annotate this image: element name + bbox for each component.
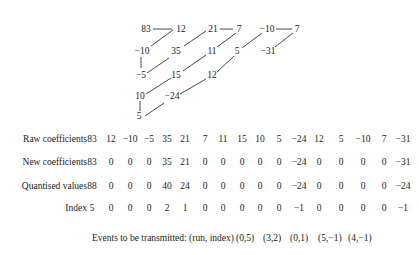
zigzag-node: 7 (295, 24, 300, 34)
table-cell: 0 (277, 203, 282, 213)
zigzag-node: −5 (136, 70, 146, 80)
table-cell: 40 (162, 181, 172, 191)
table-cell: 0 (382, 203, 387, 213)
table-cell: 35 (162, 157, 172, 167)
table-cell: 0 (109, 203, 114, 213)
zigzag-node: −31 (261, 46, 276, 56)
table-cell: 7 (382, 134, 387, 144)
table-cell: 0 (240, 157, 245, 167)
table-cell: −10 (123, 134, 138, 144)
zigzag-node: 15 (171, 70, 181, 80)
table-cell: 0 (339, 181, 344, 191)
table-cell: 83 (87, 134, 97, 144)
table-cell: 0 (128, 157, 133, 167)
zigzag-node: −24 (165, 91, 180, 101)
zigzag-node: 10 (135, 91, 145, 101)
table-cell: 0 (221, 203, 226, 213)
table-cell: 0 (361, 181, 366, 191)
zigzag-connectors (0, 0, 419, 255)
table-cell: 0 (382, 157, 387, 167)
table-cell: 15 (237, 134, 247, 144)
table-cell: 0 (203, 157, 208, 167)
table-cell: 0 (258, 203, 263, 213)
table-cell: 35 (162, 134, 172, 144)
table-cell: 10 (255, 134, 265, 144)
zigzag-node: 35 (171, 46, 181, 56)
table-cell: 0 (317, 181, 322, 191)
table-cell: 0 (277, 157, 282, 167)
table-cell: 0 (203, 203, 208, 213)
zigzag-node: 12 (207, 70, 217, 80)
table-cell: 0 (203, 181, 208, 191)
table-cell: 0 (240, 181, 245, 191)
table-cell: 83 (87, 157, 97, 167)
table-cell: −31 (396, 134, 411, 144)
row-label: Index (65, 203, 87, 213)
row-label: Raw coefficients (23, 134, 87, 144)
event-item: (4,−1) (348, 233, 372, 243)
table-cell: 0 (339, 203, 344, 213)
table-cell: 12 (314, 134, 324, 144)
table-cell: 5 (339, 134, 344, 144)
table-cell: 0 (109, 157, 114, 167)
table-cell: 88 (87, 181, 97, 191)
table-cell: −24 (292, 134, 307, 144)
table-cell: 0 (361, 203, 366, 213)
table-cell: 0 (317, 203, 322, 213)
table-cell: −1 (398, 203, 408, 213)
zigzag-node: −10 (135, 46, 150, 56)
table-cell: 0 (382, 181, 387, 191)
event-item: (3,2) (263, 233, 281, 243)
table-cell: 0 (109, 181, 114, 191)
zigzag-node: 83 (141, 24, 151, 34)
table-cell: −24 (396, 181, 411, 191)
table-cell: 0 (339, 157, 344, 167)
table-cell: 0 (258, 157, 263, 167)
zigzag-node: −10 (260, 24, 275, 34)
table-cell: 0 (317, 157, 322, 167)
table-cell: 0 (277, 181, 282, 191)
table-cell: −24 (292, 181, 307, 191)
row-label: Quantised values (22, 181, 87, 191)
event-item: (0,1) (290, 233, 308, 243)
table-cell: 24 (180, 181, 190, 191)
table-cell: 1 (183, 203, 188, 213)
table-cell: 5 (90, 203, 95, 213)
row-label: New coefficients (23, 157, 87, 167)
table-cell: 7 (203, 134, 208, 144)
table-cell: 0 (221, 157, 226, 167)
table-cell: −1 (294, 203, 304, 213)
table-cell: 21 (180, 134, 190, 144)
events-label: Events to be transmitted: (run, index) (92, 233, 234, 243)
zigzag-node: 21 (208, 24, 218, 34)
table-cell: 0 (240, 203, 245, 213)
zigzag-node: 5 (137, 111, 142, 121)
zigzag-node: 7 (237, 24, 242, 34)
table-cell: −24 (292, 157, 307, 167)
table-cell: 0 (147, 157, 152, 167)
table-cell: −10 (356, 134, 371, 144)
table-cell: 0 (258, 181, 263, 191)
event-item: (0,5) (236, 233, 254, 243)
zigzag-node: 11 (207, 46, 216, 56)
table-cell: −31 (396, 157, 411, 167)
table-cell: 5 (277, 134, 282, 144)
table-cell: 0 (361, 157, 366, 167)
table-cell: −5 (144, 134, 154, 144)
event-item: (5,−1) (318, 233, 342, 243)
table-cell: 11 (218, 134, 227, 144)
zigzag-node: 12 (176, 24, 186, 34)
table-cell: 0 (221, 181, 226, 191)
table-cell: 2 (165, 203, 170, 213)
table-cell: 0 (128, 181, 133, 191)
table-cell: 12 (106, 134, 116, 144)
table-cell: 0 (128, 203, 133, 213)
zigzag-node: 5 (235, 46, 240, 56)
table-cell: 0 (147, 181, 152, 191)
table-cell: 21 (180, 157, 190, 167)
table-cell: 0 (147, 203, 152, 213)
